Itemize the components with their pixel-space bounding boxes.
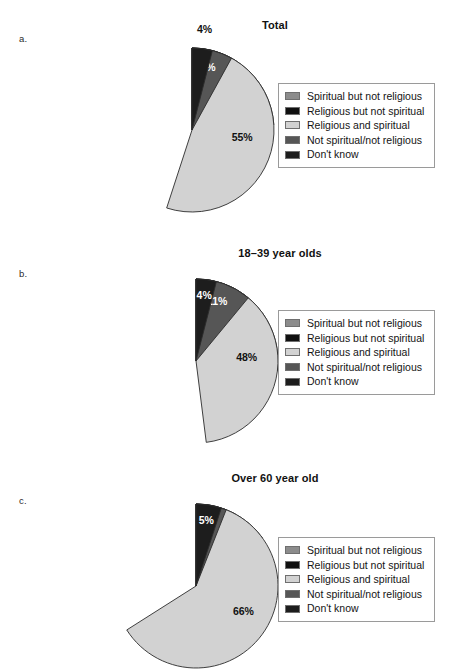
legend-swatch-religious-not-spiritual-icon — [285, 561, 300, 569]
pie-chart-c: 15%8%66%6%5% — [113, 503, 279, 669]
panel-b-letter: b. — [19, 268, 27, 279]
legend-item[interactable]: Not spiritual/not religious — [285, 587, 426, 602]
legend-item[interactable]: Religious and spiritual — [285, 572, 426, 587]
panel-b: b. 18–39 year olds 27%10%48%11%4% Spirit… — [0, 228, 471, 443]
legend-label: Don't know — [307, 149, 359, 160]
legend-label: Spiritual but not religious — [307, 91, 422, 102]
legend-swatch-religious-and-spiritual-icon — [285, 575, 300, 583]
pie-chart-a-svg: 24%9%55%8%4% — [109, 47, 275, 213]
legend-item[interactable]: Spiritual but not religious — [285, 316, 426, 331]
legend-item[interactable]: Don't know — [285, 374, 426, 389]
legend-item[interactable]: Don't know — [285, 147, 426, 162]
legend-item[interactable]: Religious and spiritual — [285, 345, 426, 360]
legend-item[interactable]: Not spiritual/not religious — [285, 360, 426, 375]
panel-a-title: Total — [262, 19, 288, 31]
legend-label: Not spiritual/not religious — [307, 589, 422, 600]
pie-chart-a: 24%9%55%8%4% — [109, 47, 275, 213]
pie-slice-label: 5% — [199, 514, 215, 526]
legend-item[interactable]: Not spiritual/not religious — [285, 133, 426, 148]
legend-label: Religious and spiritual — [307, 347, 410, 358]
pie-chart-b: 27%10%48%11%4% — [113, 278, 279, 444]
legend-item[interactable]: Religious but not spiritual — [285, 331, 426, 346]
pie-slice-label: 48% — [236, 351, 258, 363]
panel-c-title: Over 60 year old — [231, 472, 318, 484]
legend-swatch-not-spiritual-not-religious-icon — [285, 363, 300, 371]
legend-swatch-dont-know-icon — [285, 605, 300, 613]
legend-label: Religious but not spiritual — [307, 106, 424, 117]
panel-b-title: 18–39 year olds — [238, 247, 321, 259]
legend-b: Spiritual but not religious Religious bu… — [278, 310, 435, 395]
pie-slice-label: 55% — [232, 131, 254, 143]
legend-swatch-dont-know-icon — [285, 151, 300, 159]
legend-item[interactable]: Religious and spiritual — [285, 118, 426, 133]
pie-slice-label: 4% — [197, 23, 213, 35]
legend-swatch-religious-not-spiritual-icon — [285, 334, 300, 342]
legend-item[interactable]: Don't know — [285, 601, 426, 616]
pie-slice-label: 4% — [197, 289, 213, 301]
legend-swatch-religious-and-spiritual-icon — [285, 348, 300, 356]
pie-chart-b-svg: 27%10%48%11%4% — [113, 278, 279, 444]
legend-label: Spiritual but not religious — [307, 318, 422, 329]
pie-slice-label: 66% — [233, 605, 255, 617]
legend-swatch-religious-not-spiritual-icon — [285, 107, 300, 115]
legend-label: Religious and spiritual — [307, 120, 410, 131]
legend-item[interactable]: Religious but not spiritual — [285, 558, 426, 573]
legend-swatch-spiritual-not-religious-icon — [285, 319, 300, 327]
legend-label: Religious but not spiritual — [307, 560, 424, 571]
panel-c: c. Over 60 year old 15%8%66%6%5% Spiritu… — [0, 455, 471, 657]
legend-c: Spiritual but not religious Religious bu… — [278, 537, 435, 622]
legend-swatch-spiritual-not-religious-icon — [285, 546, 300, 554]
legend-label: Religious but not spiritual — [307, 333, 424, 344]
legend-label: Religious and spiritual — [307, 574, 410, 585]
legend-a: Spiritual but not religious Religious bu… — [278, 83, 435, 168]
legend-swatch-dont-know-icon — [285, 378, 300, 386]
legend-label: Don't know — [307, 376, 359, 387]
legend-label: Don't know — [307, 603, 359, 614]
legend-swatch-not-spiritual-not-religious-icon — [285, 590, 300, 598]
legend-swatch-not-spiritual-not-religious-icon — [285, 136, 300, 144]
legend-label: Not spiritual/not religious — [307, 135, 422, 146]
legend-label: Spiritual but not religious — [307, 545, 422, 556]
legend-label: Not spiritual/not religious — [307, 362, 422, 373]
pie-chart-c-svg: 15%8%66%6%5% — [113, 503, 279, 669]
panel-a-letter: a. — [19, 33, 27, 44]
legend-item[interactable]: Spiritual but not religious — [285, 89, 426, 104]
legend-swatch-religious-and-spiritual-icon — [285, 121, 300, 129]
legend-swatch-spiritual-not-religious-icon — [285, 92, 300, 100]
legend-item[interactable]: Spiritual but not religious — [285, 543, 426, 558]
legend-item[interactable]: Religious but not spiritual — [285, 104, 426, 119]
panel-a: a. Total 24%9%55%8%4% Spiritual but not … — [0, 0, 471, 215]
panel-c-letter: c. — [19, 495, 27, 506]
